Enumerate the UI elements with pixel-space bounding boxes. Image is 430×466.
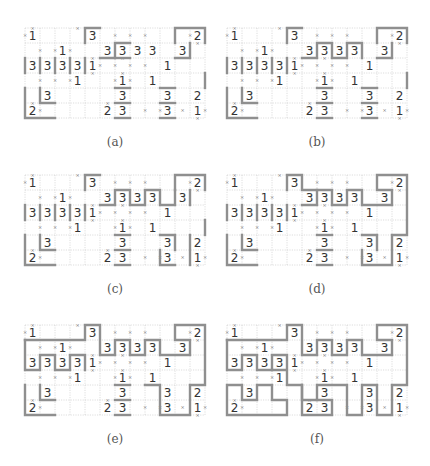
clue-number: 3 [321,191,329,205]
clue-number: 3 [74,59,82,73]
clue-number: 3 [104,341,112,355]
clue-number: 1 [194,251,202,265]
clue-number: 2 [396,386,404,400]
clue-number: 3 [179,191,187,205]
slitherlink-grid: ××××××××××××××××××××××××××××××××13213333… [227,175,407,265]
cross-mark: × [330,62,334,68]
clue-number: 2 [194,176,202,190]
cross-mark: × [38,107,42,113]
cross-mark: × [405,404,409,410]
cross-mark: × [23,179,27,185]
cross-mark: × [38,47,42,53]
clue-number: 3 [74,356,82,370]
clue-number: 3 [321,401,329,415]
cross-mark: × [240,254,244,260]
panel-caption-b: (b) [287,135,347,149]
cross-mark: × [113,62,117,68]
cross-mark: × [255,194,259,200]
cross-mark: × [128,224,132,230]
clue-number: 3 [59,59,67,73]
clue-number: 2 [194,326,202,340]
clue-number: 3 [164,236,172,250]
cross-mark: × [240,194,244,200]
clue-number: 3 [381,44,389,58]
cross-mark: × [53,344,57,350]
cross-mark: × [330,224,334,230]
cross-mark: × [345,32,349,38]
cross-mark: × [113,359,117,365]
clue-number: 3 [119,89,127,103]
clue-number: 1 [74,371,82,385]
clue-number: 1 [194,401,202,415]
clue-number: 3 [119,341,127,355]
puzzle-panel-d: ××××××××××××××××××××××××××××××××13213333… [227,175,407,265]
cross-mark: × [300,62,304,68]
clue-number: 1 [261,341,269,355]
clue-number: 3 [306,44,314,58]
clue-number: 2 [104,104,112,118]
clue-number: 3 [291,326,299,340]
clue-number: 3 [179,44,187,58]
slitherlink-grid: ××××××××××××××××××××××××××××××××13213333… [25,28,205,118]
cross-mark: × [203,404,207,410]
cross-mark: × [255,224,259,230]
cross-mark: × [277,172,281,178]
clue-number: 1 [164,59,172,73]
cross-mark: × [75,172,79,178]
cross-mark: × [143,32,147,38]
clue-number: 3 [231,356,239,370]
clue-number: 3 [164,89,172,103]
clue-number: 3 [29,206,37,220]
clue-number: 1 [396,401,404,415]
cross-mark: × [315,224,319,230]
clue-number: 1 [291,59,299,73]
clue-number: 1 [396,251,404,265]
cross-mark: × [143,359,147,365]
clue-number: 3 [119,236,127,250]
cross-mark: × [345,62,349,68]
clue-number: 2 [396,326,404,340]
clue-number: 1 [321,221,329,235]
cross-mark: × [382,404,386,410]
clue-number: 3 [246,356,254,370]
clue-number: 1 [351,371,359,385]
clue-number: 3 [351,44,359,58]
clue-number: 1 [276,371,284,385]
cross-mark: × [203,107,207,113]
clue-number: 1 [366,206,374,220]
clue-number: 3 [119,401,127,415]
clue-number: 2 [306,251,314,265]
cross-mark: × [330,209,334,215]
cross-mark: × [180,254,184,260]
clue-number: 1 [366,356,374,370]
clue-number: 3 [44,386,52,400]
clue-number: 3 [261,206,269,220]
clue-number: 1 [74,74,82,88]
cross-mark: × [270,47,274,53]
clue-number: 3 [231,206,239,220]
cross-mark: × [53,194,57,200]
clue-number: 3 [44,59,52,73]
clue-number: 3 [89,326,97,340]
cross-mark: × [23,329,27,335]
cross-mark: × [345,179,349,185]
clue-number: 2 [231,401,239,415]
cross-mark: × [270,224,274,230]
clue-number: 3 [351,341,359,355]
cross-mark: × [53,374,57,380]
cross-mark: × [53,77,57,83]
cross-mark: × [113,32,117,38]
cross-mark: × [128,62,132,68]
cross-mark: × [330,374,334,380]
cross-mark: × [38,77,42,83]
clue-number: 3 [119,191,127,205]
clue-number: 3 [246,89,254,103]
puzzle-panel-f: ××××××××××××××××××××××××××××××××13213333… [227,325,407,415]
cross-mark: × [270,374,274,380]
clue-number: 1 [119,74,127,88]
cross-mark: × [277,322,281,328]
cross-mark: × [330,179,334,185]
slitherlink-grid: ××××××××××××××××××××××××××××××××13213333… [227,325,407,415]
cross-mark: × [180,107,184,113]
cross-mark: × [38,224,42,230]
